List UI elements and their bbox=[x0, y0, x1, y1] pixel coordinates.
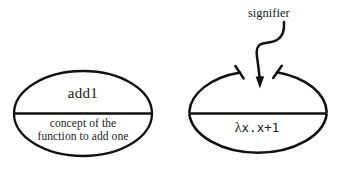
concept-text: concept of the function to add one bbox=[14, 117, 152, 143]
signifier-arrowhead-icon bbox=[256, 76, 265, 88]
signifier-arrow bbox=[256, 22, 285, 89]
signifier-annotation-label: signifier bbox=[248, 6, 334, 20]
lambda-body: x.x+1 bbox=[242, 120, 280, 135]
concept-text-line-2: function to add one bbox=[14, 130, 152, 143]
signifier-ellipse-top-right-arc bbox=[277, 72, 327, 112]
add1-text: add1 bbox=[14, 85, 152, 102]
diagram-canvas: add1 concept of the function to add one … bbox=[0, 0, 340, 173]
lambda-expression-text: λx.x+1 bbox=[187, 120, 327, 136]
add1-concept-ellipse bbox=[14, 71, 152, 156]
lambda-symbol: λ bbox=[235, 120, 242, 135]
concept-text-line-1: concept of the bbox=[50, 117, 117, 129]
signifier-ellipse-top-left-arc bbox=[189, 73, 240, 113]
